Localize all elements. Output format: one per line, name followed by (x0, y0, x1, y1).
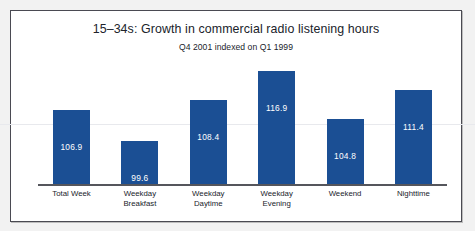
bar-value-label: 116.9 (266, 103, 287, 113)
bar-nighttime[interactable]: 111.4 (395, 90, 432, 184)
category-label-total-week: Total Week (39, 189, 104, 209)
bar-slot: 99.6 (107, 29, 172, 184)
bar-slot: 111.4 (381, 29, 446, 184)
bar-weekday-evening[interactable]: 116.9 (258, 71, 295, 184)
category-label-weekday-daytime: Weekday Daytime (176, 189, 241, 209)
bar-value-label: 111.4 (403, 122, 424, 132)
category-label-nighttime: Nighttime (381, 189, 446, 209)
category-label-weekday-breakfast: Weekday Breakfast (107, 189, 172, 209)
bar-weekday-daytime[interactable]: 108.4 (190, 100, 227, 184)
bar-slot: 104.8 (313, 29, 378, 184)
bar-value-label: 104.8 (334, 151, 356, 161)
chart-frame: 15–34s: Growth in commercial radio liste… (10, 10, 462, 222)
bar-value-label: 108.4 (197, 132, 219, 142)
bar-total-week[interactable]: 106.9 (53, 110, 90, 184)
bar-weekday-breakfast[interactable]: 99.6 (121, 141, 158, 184)
bar-slot: 108.4 (176, 29, 241, 184)
bar-weekend[interactable]: 104.8 (327, 119, 364, 184)
bar-slot: 116.9 (244, 29, 309, 184)
slide-background: 15–34s: Growth in commercial radio liste… (0, 0, 475, 231)
bar-value-label: 106.9 (61, 142, 83, 152)
plot-region: 106.9 99.6 108.4 (39, 29, 446, 184)
category-label-weekend: Weekend (313, 189, 378, 209)
bar-slot: 106.9 (39, 29, 104, 184)
chart-area: 15–34s: Growth in commercial radio liste… (11, 11, 461, 221)
bar-value-label: 99.6 (131, 173, 148, 183)
x-axis-labels: Total Week Weekday Breakfast Weekday Day… (39, 189, 446, 209)
x-axis-line (38, 184, 447, 186)
category-label-weekday-evening: Weekday Evening (244, 189, 309, 209)
bar-series: 106.9 99.6 108.4 (39, 29, 446, 184)
